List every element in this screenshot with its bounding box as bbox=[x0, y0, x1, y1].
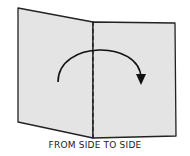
diagram-caption: FROM SIDE TO SIDE bbox=[0, 140, 190, 150]
paper-right-panel bbox=[93, 22, 176, 138]
paper-left-panel bbox=[18, 8, 93, 138]
fold-diagram bbox=[0, 0, 190, 156]
